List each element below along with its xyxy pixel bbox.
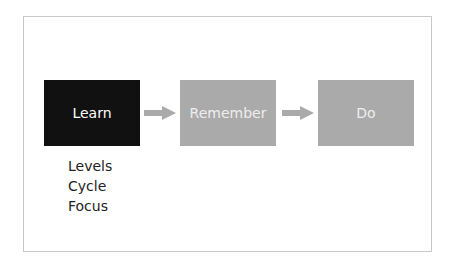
step-learn: Learn — [44, 80, 140, 146]
step-do-label: Do — [356, 105, 375, 121]
arrow-right-icon — [282, 106, 314, 120]
step-learn-label: Learn — [72, 105, 111, 121]
list-item: Levels — [68, 156, 112, 176]
list-item: Cycle — [68, 176, 112, 196]
list-item: Focus — [68, 196, 112, 216]
step-remember: Remember — [180, 80, 276, 146]
arrow-right-icon — [144, 106, 176, 120]
step-do: Do — [318, 80, 414, 146]
step-remember-label: Remember — [190, 105, 267, 121]
learn-details-list: Levels Cycle Focus — [68, 156, 112, 216]
